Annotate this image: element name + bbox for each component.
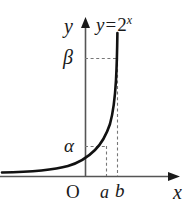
function-equation-label: y=2x [96,15,132,34]
function-equals-sign: = [104,14,117,35]
x-tick-label-a: a [100,183,109,201]
function-base: 2 [117,14,127,35]
function-exponent: x [127,13,132,27]
x-axis [0,172,180,181]
x-axis-label: x [173,182,182,202]
x-axis-arrowhead [168,172,180,181]
exponential-graph-figure: y x O a b α β y=2x [0,0,194,224]
y-axis-label: y [64,16,73,36]
y-tick-label-alpha: α [64,136,74,155]
y-axis [81,17,90,176]
y-axis-arrowhead [81,17,90,28]
origin-label: O [66,182,80,201]
exponential-curve [2,33,117,173]
x-tick-label-b: b [115,181,125,200]
y-tick-label-beta: β [63,47,73,67]
